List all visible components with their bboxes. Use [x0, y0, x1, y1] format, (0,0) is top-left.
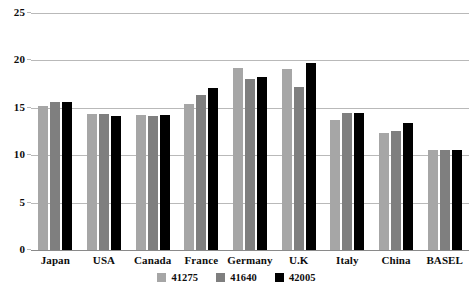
category-label: BASEL — [420, 252, 469, 270]
bar — [306, 63, 316, 250]
category-label: Canada — [128, 252, 177, 270]
category-axis: JapanUSACanadaFranceGermanyU.KItalyChina… — [31, 252, 469, 270]
bar — [391, 131, 401, 250]
bar — [330, 120, 340, 250]
bar-group — [372, 13, 421, 250]
y-tick-label: 0 — [19, 243, 25, 255]
bar — [99, 114, 109, 250]
bar — [403, 123, 413, 250]
bar-group — [274, 13, 323, 250]
bar — [452, 150, 462, 250]
bars-layer — [31, 13, 469, 250]
bar-chart: 2520151050 JapanUSACanadaFranceGermanyU.… — [0, 0, 473, 300]
legend-label: 42005 — [289, 272, 316, 283]
legend-label: 41275 — [171, 272, 198, 283]
bar — [111, 116, 121, 250]
bar — [233, 68, 243, 250]
category-label: Germany — [226, 252, 275, 270]
bar — [184, 104, 194, 250]
bar — [38, 106, 48, 250]
bar-group — [128, 13, 177, 250]
category-label: France — [177, 252, 226, 270]
legend-label: 41640 — [230, 272, 257, 283]
bar — [428, 150, 438, 250]
bar-group — [226, 13, 275, 250]
bar-group — [420, 13, 469, 250]
bar — [440, 150, 450, 250]
bar-group — [323, 13, 372, 250]
y-tick-label: 25 — [14, 6, 25, 18]
category-label: China — [372, 252, 421, 270]
legend-item[interactable]: 41640 — [216, 272, 257, 283]
bar — [196, 95, 206, 250]
bar — [208, 88, 218, 250]
bar — [136, 115, 146, 250]
legend-swatch-icon — [216, 273, 225, 282]
bar — [294, 87, 304, 250]
bar — [379, 133, 389, 250]
y-tick-label: 20 — [14, 53, 25, 65]
bar — [245, 79, 255, 250]
bar — [257, 77, 267, 250]
gridline — [31, 250, 469, 251]
y-tick-label: 10 — [14, 148, 25, 160]
bar-group — [31, 13, 80, 250]
y-tick-label: 15 — [14, 101, 25, 113]
bar — [282, 69, 292, 250]
bar — [160, 115, 170, 250]
bar — [87, 114, 97, 250]
legend-swatch-icon — [157, 273, 166, 282]
bar — [354, 113, 364, 250]
plot-area: 2520151050 — [31, 13, 469, 250]
legend-swatch-icon — [275, 273, 284, 282]
chart-legend: 412754164042005 — [0, 272, 473, 283]
y-tick-label: 5 — [19, 196, 25, 208]
category-label: U.K — [274, 252, 323, 270]
legend-item[interactable]: 42005 — [275, 272, 316, 283]
bar — [342, 113, 352, 250]
bar — [148, 116, 158, 250]
bar — [50, 102, 60, 250]
bar-group — [80, 13, 129, 250]
bar — [62, 102, 72, 250]
category-label: Italy — [323, 252, 372, 270]
category-label: Japan — [31, 252, 80, 270]
legend-item[interactable]: 41275 — [157, 272, 198, 283]
category-label: USA — [80, 252, 129, 270]
bar-group — [177, 13, 226, 250]
